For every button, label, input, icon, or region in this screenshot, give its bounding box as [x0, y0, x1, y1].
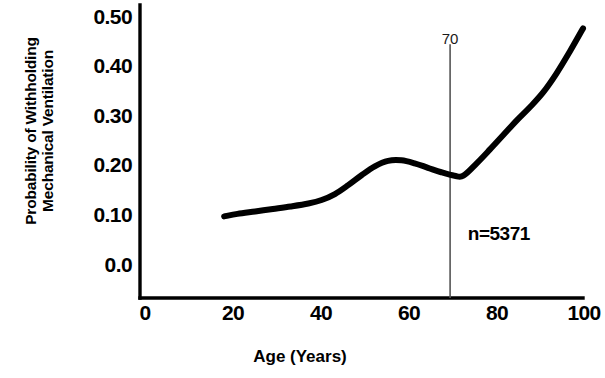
- sample-size-annotation: n=5371: [468, 223, 530, 245]
- age-70-reference-label: 70: [428, 30, 472, 47]
- x-axis-title: Age (Years): [0, 347, 600, 367]
- probability-curve: [224, 28, 583, 216]
